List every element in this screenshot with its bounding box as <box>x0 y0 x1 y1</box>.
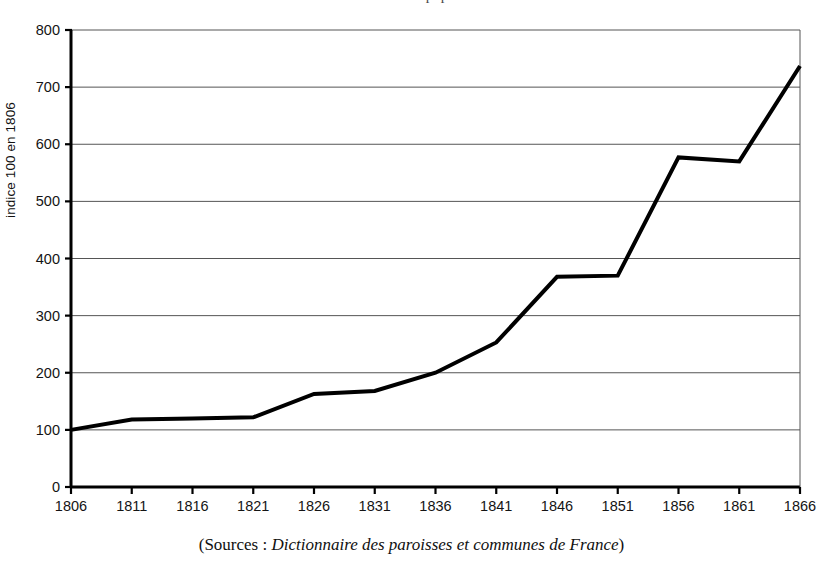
y-tick-label: 600 <box>16 137 60 152</box>
x-tick-label: 1846 <box>527 499 587 514</box>
figure-container: évolution de la population indice 100 en… <box>0 0 823 564</box>
x-tick-label: 1856 <box>649 499 709 514</box>
x-tick-label: 1806 <box>41 499 101 514</box>
y-tick-label: 500 <box>16 194 60 209</box>
x-tick-label: 1831 <box>345 499 405 514</box>
x-tick-label: 1821 <box>223 499 283 514</box>
y-tick-label: 800 <box>16 23 60 38</box>
x-tick-label: 1851 <box>588 499 648 514</box>
y-tick-label: 300 <box>16 309 60 324</box>
caption-prefix: (Sources : <box>199 535 267 554</box>
caption-italic-title: Dictionnaire des paroisses et communes d… <box>271 535 618 554</box>
y-tick-label: 0 <box>16 480 60 495</box>
line-chart-plot <box>0 0 823 564</box>
source-caption: (Sources : Dictionnaire des paroisses et… <box>0 535 823 555</box>
gridlines <box>71 30 800 430</box>
data-series-line <box>71 66 800 430</box>
x-tick-label: 1816 <box>163 499 223 514</box>
x-tick-label: 1826 <box>284 499 344 514</box>
y-tick-label: 200 <box>16 366 60 381</box>
y-tick-label: 100 <box>16 423 60 438</box>
y-tick-label: 400 <box>16 252 60 267</box>
x-tick-label: 1811 <box>102 499 162 514</box>
x-tick-label: 1836 <box>406 499 466 514</box>
caption-suffix: ) <box>619 535 625 554</box>
x-tick-label: 1841 <box>466 499 526 514</box>
x-tick-label: 1861 <box>709 499 769 514</box>
y-tick-label: 700 <box>16 80 60 95</box>
x-tick-label: 1866 <box>770 499 823 514</box>
